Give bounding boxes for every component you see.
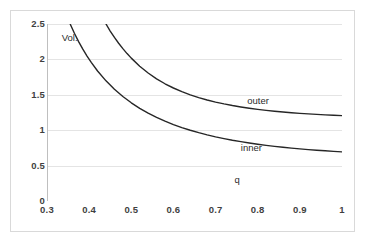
y-axis-tick-labels: 00.511.522.5 — [23, 24, 45, 201]
x-tick-label: 0.3 — [40, 205, 54, 215]
series-curve-inner — [70, 24, 342, 152]
series-label-inner: inner — [241, 143, 262, 153]
x-tick-label: 0.6 — [167, 205, 181, 215]
x-axis-title: q — [235, 175, 240, 185]
y-tick-label: 1 — [40, 125, 45, 135]
y-axis-title: Vol. — [62, 33, 78, 43]
y-tick-label: 0.5 — [31, 161, 45, 171]
x-tick-label: 0.9 — [293, 205, 307, 215]
y-tick-label: 2 — [40, 54, 45, 64]
y-tick-label: 1.5 — [31, 90, 45, 100]
x-tick-label: 1 — [339, 205, 344, 215]
x-tick-label: 0.8 — [251, 205, 265, 215]
x-axis-tick-labels: 0.30.40.50.60.70.80.91 — [47, 205, 342, 221]
plot-area: Vol. outer inner q — [47, 24, 342, 201]
x-tick-label: 0.7 — [209, 205, 223, 215]
y-tick-label: 2.5 — [31, 19, 45, 29]
chart-frame: 00.511.522.5 Vol. outer inner q 0.30.40.… — [10, 10, 355, 232]
x-tick-label: 0.5 — [124, 205, 138, 215]
series-label-outer: outer — [247, 96, 269, 106]
x-tick-label: 0.4 — [82, 205, 96, 215]
plot-svg — [47, 24, 342, 201]
series-curve-outer — [106, 24, 342, 116]
